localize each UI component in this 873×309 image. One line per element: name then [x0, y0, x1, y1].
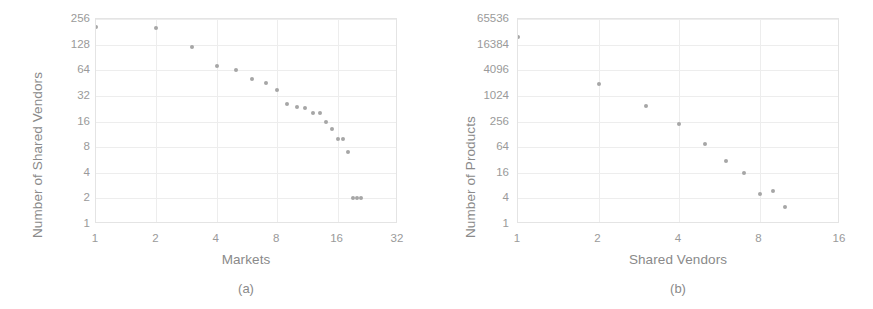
data-point [703, 142, 707, 146]
data-point [318, 111, 322, 115]
x-tick-label: 4 [675, 232, 681, 244]
data-point [215, 64, 219, 68]
gridline-horizontal [96, 45, 396, 46]
gridline-horizontal [518, 70, 838, 71]
y-tick-label: 65536 [477, 12, 509, 24]
y-tick-label: 16 [496, 166, 509, 178]
gridline-horizontal [96, 96, 396, 97]
data-point [346, 150, 350, 154]
plot-area-b [517, 18, 839, 223]
data-point [275, 88, 279, 92]
gridline-horizontal [518, 96, 838, 97]
chart-panel-a: Number of Shared Vendors 256128643216842… [0, 0, 437, 309]
y-axis-label-a: Number of Shared Vendors [30, 72, 45, 238]
gridline-horizontal [96, 173, 396, 174]
plot-area-a [95, 18, 397, 223]
data-point [336, 137, 340, 141]
x-tick-label: 2 [152, 232, 158, 244]
gridline-vertical [217, 19, 218, 222]
y-tick-label: 64 [77, 63, 90, 75]
x-tick-label: 1 [514, 232, 520, 244]
data-point [311, 111, 315, 115]
y-tick-label: 16384 [477, 38, 509, 50]
gridline-vertical [679, 19, 680, 222]
y-tick-label: 2 [84, 191, 90, 203]
gridline-vertical [338, 19, 339, 222]
y-tick-label: 4 [84, 166, 90, 178]
figure-root: Number of Shared Vendors 256128643216842… [0, 0, 873, 309]
data-point [330, 127, 334, 131]
gridline-vertical [277, 19, 278, 222]
y-tick-label: 64 [496, 140, 509, 152]
x-tick-label: 16 [833, 232, 846, 244]
y-tick-label: 8 [84, 140, 90, 152]
gridline-horizontal [518, 198, 838, 199]
data-point [295, 105, 299, 109]
gridline-vertical [599, 19, 600, 222]
y-tick-label: 4 [503, 191, 509, 203]
data-point [303, 106, 307, 110]
panel-caption-a: (a) [95, 281, 397, 296]
y-axis-label-b: Number of Products [463, 116, 478, 238]
y-tick-label: 128 [71, 38, 90, 50]
data-point [724, 159, 728, 163]
gridline-horizontal [518, 147, 838, 148]
y-tick-label: 32 [77, 89, 90, 101]
data-point [677, 122, 681, 126]
data-point [597, 82, 601, 86]
data-point [517, 35, 520, 39]
y-tick-label: 1 [84, 217, 90, 229]
y-tick-label: 256 [490, 115, 509, 127]
data-point [359, 196, 363, 200]
x-tick-label: 2 [594, 232, 600, 244]
data-point [190, 45, 194, 49]
data-point [771, 189, 775, 193]
y-tick-label: 1024 [483, 89, 509, 101]
data-point [783, 205, 787, 209]
data-point [324, 120, 328, 124]
x-axis-label-b: Shared Vendors [517, 252, 839, 267]
gridline-horizontal [96, 122, 396, 123]
y-tick-label: 1 [503, 217, 509, 229]
gridline-horizontal [96, 19, 396, 20]
x-tick-label: 32 [391, 232, 404, 244]
gridline-horizontal [518, 45, 838, 46]
gridline-horizontal [96, 147, 396, 148]
x-tick-label: 4 [213, 232, 219, 244]
data-point [95, 25, 98, 29]
gridline-horizontal [518, 19, 838, 20]
y-tick-label: 4096 [483, 63, 509, 75]
data-point [758, 192, 762, 196]
data-point [234, 68, 238, 72]
gridline-horizontal [518, 173, 838, 174]
gridline-vertical [156, 19, 157, 222]
data-point [742, 171, 746, 175]
x-tick-label: 8 [755, 232, 761, 244]
data-point [341, 137, 345, 141]
x-axis-label-a: Markets [95, 252, 397, 267]
chart-panel-b: Number of Products 655361638440961024256… [437, 0, 873, 309]
gridline-horizontal [96, 70, 396, 71]
data-point [154, 26, 158, 30]
data-point [285, 102, 289, 106]
data-point [250, 77, 254, 81]
data-point [264, 81, 268, 85]
x-tick-label: 16 [330, 232, 343, 244]
y-tick-label: 256 [71, 12, 90, 24]
data-point [351, 196, 355, 200]
data-point [644, 104, 648, 108]
y-tick-label: 16 [77, 115, 90, 127]
x-tick-label: 1 [92, 232, 98, 244]
x-tick-label: 8 [273, 232, 279, 244]
panel-caption-b: (b) [517, 281, 839, 296]
